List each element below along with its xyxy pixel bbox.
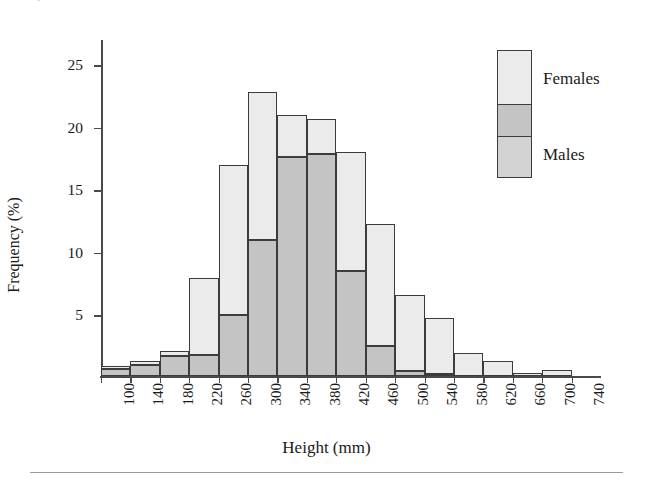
y-axis-title: Frequency (%): [5, 197, 23, 293]
bar-bin-180: [160, 351, 189, 376]
x-tick-label-300: 300: [269, 383, 284, 406]
x-tick-label-180: 180: [181, 383, 196, 406]
bar-segment-males-300: [248, 240, 277, 376]
x-tick-label-540: 540: [445, 383, 460, 406]
caption-fragment: · , · ·: [30, 0, 56, 1]
y-tick-label-10: 10: [68, 245, 84, 261]
x-tick-label-500: 500: [416, 383, 431, 406]
bar-bin-500: [395, 295, 424, 376]
legend-label-females: Females: [543, 69, 600, 89]
bar-segment-females-260: [219, 165, 248, 315]
bar-segment-females-340: [277, 115, 306, 158]
x-tick-label-220: 220: [210, 383, 225, 406]
bar-bin-620: [483, 361, 512, 376]
x-tick-label-420: 420: [357, 383, 372, 406]
bar-segment-females-700: [542, 370, 571, 376]
bar-bin-140: [130, 361, 159, 376]
bar-segment-males-380: [307, 154, 336, 377]
bar-bin-100: [101, 366, 130, 376]
bar-segment-males-500: [395, 371, 424, 376]
y-tick-label-5: 5: [75, 307, 83, 323]
y-tick-label-20: 20: [68, 120, 84, 136]
x-tick-label-580: 580: [475, 383, 490, 406]
bar-bin-660: [513, 373, 542, 377]
bar-segment-females-540: [425, 318, 454, 374]
bar-segment-females-380: [307, 119, 336, 154]
bar-segment-males-340: [277, 157, 306, 376]
legend-swatch-males: [497, 136, 532, 178]
legend-swatch-females: [497, 50, 532, 105]
x-axis-title: Height (mm): [0, 438, 653, 458]
bar-bin-260: [219, 165, 248, 377]
bar-segment-females-460: [366, 224, 395, 347]
x-tick-label-700: 700: [563, 383, 578, 406]
bar-bin-700: [542, 370, 571, 376]
x-tick-label-620: 620: [504, 383, 519, 406]
y-tick-label-25: 25: [68, 57, 84, 73]
bar-segment-females-220: [189, 278, 218, 356]
x-tick-label-340: 340: [298, 383, 313, 406]
legend-swatch-stack: [497, 50, 532, 178]
x-tick-label-460: 460: [386, 383, 401, 406]
bar-segment-males-100: [101, 369, 130, 377]
legend: Females Males: [497, 50, 647, 180]
bar-bin-420: [336, 152, 365, 376]
bar-bin-340: [277, 115, 306, 377]
bar-segment-males-220: [189, 355, 218, 376]
bottom-divider: [30, 472, 623, 473]
bar-segment-males-140: [130, 365, 159, 376]
bar-bin-460: [366, 224, 395, 377]
bar-segment-females-500: [395, 295, 424, 371]
bar-bin-380: [307, 119, 336, 377]
bar-bin-580: [454, 353, 483, 377]
y-tick-label-15: 15: [68, 182, 84, 198]
x-tick-label-660: 660: [533, 383, 548, 406]
x-tick-label-740: 740: [592, 383, 607, 406]
bar-segment-females-620: [483, 361, 512, 376]
bar-bin-540: [425, 318, 454, 377]
bar-segment-males-180: [160, 356, 189, 376]
x-tick-label-260: 260: [239, 383, 254, 406]
legend-swatch-divider: [497, 104, 532, 137]
legend-label-males: Males: [543, 145, 585, 165]
bar-segment-males-260: [219, 315, 248, 376]
x-tick-label-140: 140: [151, 383, 166, 406]
bar-segment-males-540: [425, 374, 454, 377]
bar-segment-females-420: [336, 152, 365, 271]
x-tick-label-380: 380: [328, 383, 343, 406]
bar-segment-females-300: [248, 92, 277, 240]
x-tick-label-100: 100: [122, 383, 137, 406]
bar-segment-males-420: [336, 271, 365, 376]
x-tick-100: [101, 378, 102, 383]
x-axis-line: [100, 376, 601, 378]
bar-segment-females-580: [454, 353, 483, 377]
bar-segment-males-460: [366, 346, 395, 376]
bar-segment-females-660: [513, 373, 542, 377]
bar-bin-220: [189, 278, 218, 377]
figure-histogram: · , · · 510152025 Frequency (%) 10014018…: [0, 0, 653, 489]
bar-bin-300: [248, 92, 277, 376]
